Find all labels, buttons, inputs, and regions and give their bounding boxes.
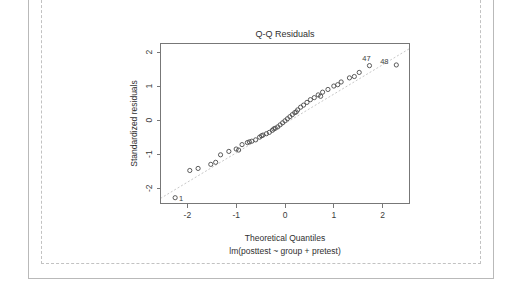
x-tick-label: 0 — [283, 210, 288, 220]
data-point — [209, 162, 213, 166]
chart-title: Q-Q Residuals — [255, 29, 315, 39]
data-point — [394, 63, 398, 67]
data-point — [173, 196, 177, 200]
y-tick-label: 2 — [145, 49, 155, 54]
x-tick-label: -1 — [232, 210, 240, 220]
data-point — [227, 149, 231, 153]
data-point — [326, 87, 330, 91]
x-axis-title: Theoretical Quantiles — [245, 233, 325, 243]
data-point — [218, 153, 222, 157]
point-label: 48 — [380, 57, 388, 66]
y-tick-label: -2 — [145, 184, 155, 192]
y-tick-label: 1 — [145, 83, 155, 88]
y-axis-title: Standardized residuals — [129, 80, 139, 166]
y-tick-label: 0 — [145, 117, 155, 122]
point-label: 47 — [362, 54, 370, 63]
chart-canvas: -2-1012-2-101214748Q-Q ResidualsTheoreti… — [0, 0, 523, 296]
y-tick-label: -1 — [145, 150, 155, 158]
data-point — [320, 90, 324, 94]
data-point — [196, 166, 200, 170]
qq-residuals-chart: -2-1012-2-101214748Q-Q ResidualsTheoreti… — [0, 0, 523, 296]
data-point — [357, 70, 361, 74]
point-label: 1 — [179, 194, 183, 203]
x-tick-label: 2 — [380, 210, 385, 220]
x-tick-label: -2 — [184, 210, 192, 220]
data-point — [347, 76, 351, 80]
data-point — [367, 64, 371, 68]
data-point — [214, 160, 218, 164]
data-point — [312, 96, 316, 100]
data-point — [188, 168, 192, 172]
data-point — [352, 74, 356, 78]
data-point — [240, 143, 244, 147]
x-tick-label: 1 — [331, 210, 336, 220]
chart-subtitle: lm(posttest ~ group + pretest) — [229, 246, 341, 256]
data-point — [339, 80, 343, 84]
